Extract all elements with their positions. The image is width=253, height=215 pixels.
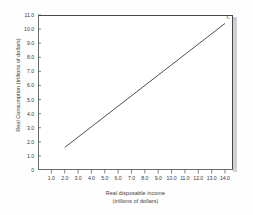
data-series: [65, 23, 225, 147]
y-tick-label: 8.0: [4, 54, 34, 60]
x-axis-title-line2: (trillions of dollars): [38, 198, 233, 206]
series-label-c: C: [226, 14, 230, 20]
y-tick-label: 1.0: [4, 153, 34, 159]
y-tick-label: 3.0: [4, 125, 34, 131]
x-tick-label: 14.0: [213, 175, 237, 181]
y-tick-label: 6.0: [4, 82, 34, 88]
y-tick-label: 2.0: [4, 139, 34, 145]
x-axis-title-line1: Real disposable income: [38, 190, 233, 198]
chart-svg: [0, 0, 253, 215]
y-tick-label: 11.0: [4, 12, 34, 18]
y-tick-label: 0: [4, 167, 34, 173]
x-axis-title: Real disposable income (trillions of dol…: [38, 190, 233, 205]
y-tick-label: 10.0: [4, 26, 34, 32]
y-tick-label: 4.0: [4, 111, 34, 117]
x-tick-marks: [51, 170, 225, 174]
y-tick-label: 5.0: [4, 97, 34, 103]
chart-figure: Real Consumption (trillions of dollars) …: [0, 0, 253, 215]
y-tick-label: 9.0: [4, 40, 34, 46]
y-tick-label: 7.0: [4, 68, 34, 74]
y-tick-marks: [38, 15, 41, 156]
